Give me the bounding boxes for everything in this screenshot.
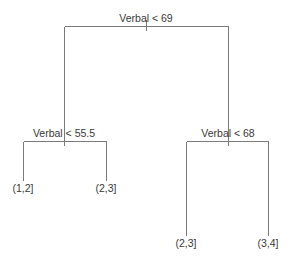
decision-tree: Verbal < 69 Verbal < 55.5 (1,2] (2,3] Ve… xyxy=(0,0,297,260)
right-split-label: Verbal < 68 xyxy=(201,127,255,139)
left-split-label: Verbal < 55.5 xyxy=(33,127,95,139)
node-left: Verbal < 55.5 (1,2] (2,3] xyxy=(12,127,116,194)
leaf-label: (2,3] xyxy=(175,237,196,249)
root-split-label: Verbal < 69 xyxy=(119,12,173,24)
leaf-label: (1,2] xyxy=(12,182,33,194)
node-right: Verbal < 68 (2,3] (3,4] xyxy=(175,127,278,249)
leaf-label: (3,4] xyxy=(257,237,278,249)
leaf-label: (2,3] xyxy=(95,182,116,194)
node-root: Verbal < 69 xyxy=(65,12,229,31)
